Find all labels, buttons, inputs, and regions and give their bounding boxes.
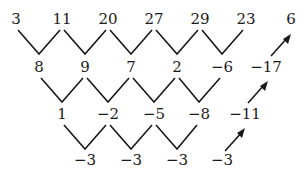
connectors-r1-r2 <box>41 78 220 102</box>
value-r3-c2: −3 <box>166 151 188 169</box>
value-r3-c1: −3 <box>120 151 142 169</box>
value-r0-c3: 27 <box>144 10 163 28</box>
value-r0-c5: 23 <box>236 10 255 28</box>
connectors-r2-r3 <box>64 125 197 149</box>
v-connector <box>110 30 152 54</box>
value-r0-c6: 6 <box>286 10 296 28</box>
arrow-head-icon <box>283 34 291 44</box>
value-r0-c4: 29 <box>190 10 209 28</box>
v-connector <box>64 125 106 149</box>
value-r0-c0: 3 <box>11 10 21 28</box>
value-r1-c3: 2 <box>172 58 182 76</box>
v-connector <box>64 30 106 54</box>
row-0: 3 11 20 27 29 23 6 <box>11 10 296 28</box>
value-r1-c1: 9 <box>80 58 90 76</box>
row-1: 8 9 7 2 −6 −17 <box>34 58 282 76</box>
v-connector <box>179 78 220 102</box>
extrapolation-arrows <box>225 34 291 151</box>
arrow-head-icon <box>260 81 268 91</box>
v-connector <box>156 125 197 149</box>
v-connector <box>87 78 129 102</box>
value-r2-c3: −8 <box>188 105 210 123</box>
connectors-r0-r1 <box>18 30 243 54</box>
v-connector <box>18 30 60 54</box>
difference-diagram: 3 11 20 27 29 23 6 8 9 7 2 −6 −17 1 −2 −… <box>0 0 306 178</box>
value-r1-c2: 7 <box>126 58 136 76</box>
value-r1-c4: −6 <box>211 58 233 76</box>
value-r0-c2: 20 <box>98 10 117 28</box>
v-connector <box>133 78 175 102</box>
row-3: −3 −3 −3 −3 <box>74 151 233 169</box>
value-r2-c0: 1 <box>57 105 67 123</box>
value-r1-c0: 8 <box>34 58 44 76</box>
v-connector <box>202 30 243 54</box>
row-2: 1 −2 −5 −8 −11 <box>57 105 261 123</box>
value-r0-c1: 11 <box>52 10 71 28</box>
value-r2-c2: −5 <box>143 105 165 123</box>
value-r3-c0: −3 <box>74 151 96 169</box>
v-connector <box>41 78 83 102</box>
value-r1-c5: −17 <box>250 58 282 76</box>
v-connector <box>110 125 152 149</box>
value-r3-c3: −3 <box>211 151 233 169</box>
v-connector <box>156 30 198 54</box>
value-r2-c4: −11 <box>229 105 261 123</box>
value-r2-c1: −2 <box>97 105 119 123</box>
